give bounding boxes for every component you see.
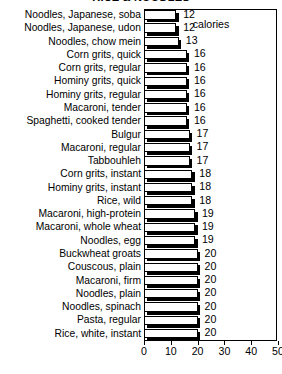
- bar-face: [144, 143, 190, 152]
- bar-row: Macaroni, whole wheat19: [0, 221, 282, 234]
- bar-face: [144, 130, 190, 139]
- bar: [144, 90, 187, 99]
- x-axis-tick-label: 10: [165, 345, 177, 357]
- bar-category-label: Macaroni, tender: [64, 102, 141, 115]
- bar: [144, 156, 190, 165]
- bar-row: Buckwheat groats20: [0, 248, 282, 261]
- bar-face: [144, 302, 198, 311]
- chart-title: RICE & NOODLES: [0, 0, 282, 3]
- bar-category-label: Hominy grits, instant: [48, 182, 141, 195]
- bar-face: [144, 276, 198, 285]
- bar-category-label: Noodles, Japanese, udon: [24, 22, 141, 35]
- bar-row: Hominy grits, regular16: [0, 89, 282, 102]
- bar-category-label: Rice, wild: [97, 195, 141, 208]
- bar-category-label: Noodles, spinach: [62, 301, 141, 314]
- bar-value-label: 20: [205, 248, 217, 261]
- bar: [144, 77, 187, 86]
- bar-value-label: 17: [197, 155, 209, 168]
- x-axis-tick-label: 0: [141, 345, 147, 357]
- bar-category-label: Corn grits, quick: [67, 49, 141, 62]
- bar-row: Tabbouhleh17: [0, 155, 282, 168]
- bar-face: [144, 170, 192, 179]
- bar-row: Bulgur17: [0, 129, 282, 142]
- bar-value-label: 20: [205, 314, 217, 327]
- bar-value-label: 16: [194, 75, 206, 88]
- bar-row: Corn grits, regular16: [0, 62, 282, 75]
- bar-face: [144, 249, 198, 258]
- bar-face: [144, 116, 187, 125]
- bar-value-label: 17: [197, 141, 209, 154]
- bar-category-label: Macaroni, regular: [61, 142, 141, 155]
- bar-value-label: 19: [202, 234, 214, 247]
- bar-value-label: 19: [202, 221, 214, 234]
- bar-category-label: Noodles, plain: [76, 288, 141, 301]
- bar-row: Macaroni, high-protein19: [0, 208, 282, 221]
- x-axis-tick-label: 40: [245, 345, 257, 357]
- bar-row: Noodles, plain20: [0, 288, 282, 301]
- bar-value-label: 18: [199, 168, 211, 181]
- bar-row: Noodles, egg19: [0, 235, 282, 248]
- bar: [144, 130, 190, 139]
- bar: [144, 209, 195, 218]
- bar-row: Hominy grits, instant18: [0, 182, 282, 195]
- bar-face: [144, 50, 187, 59]
- bar: [144, 249, 198, 258]
- bar: [144, 236, 195, 245]
- bar: [144, 23, 176, 32]
- bar-face: [144, 77, 187, 86]
- bar-category-label: Macaroni, whole wheat: [36, 221, 141, 234]
- bar: [144, 63, 187, 72]
- bar: [144, 316, 198, 325]
- bar-category-label: Bulgur: [111, 129, 141, 142]
- bar-face: [144, 63, 187, 72]
- bar-value-label: 20: [205, 261, 217, 274]
- bar-category-label: Hominy grits, regular: [46, 89, 141, 102]
- bar-category-label: Corn grits, regular: [59, 62, 141, 75]
- bar-face: [144, 223, 195, 232]
- bar: [144, 143, 190, 152]
- bar: [144, 116, 187, 125]
- bar: [144, 50, 187, 59]
- bar-category-label: Hominy grits, quick: [54, 75, 141, 88]
- bar-row: Corn grits, instant18: [0, 168, 282, 181]
- bar-value-label: 16: [194, 62, 206, 75]
- bar-face: [144, 209, 195, 218]
- bar: [144, 103, 187, 112]
- bar-value-label: 20: [205, 287, 217, 300]
- bar-value-label: 19: [202, 208, 214, 221]
- bar-value-label: 16: [194, 48, 206, 61]
- bar: [144, 263, 198, 272]
- bar-value-label: 20: [205, 274, 217, 287]
- bar-value-label: 16: [194, 88, 206, 101]
- bar-value-label: 16: [194, 102, 206, 115]
- bar-row: Macaroni, tender16: [0, 102, 282, 115]
- bar-row: Couscous, plain20: [0, 261, 282, 274]
- bar-face: [144, 23, 176, 32]
- bar-value-label: 18: [199, 195, 211, 208]
- bar-category-label: Buckwheat groats: [59, 248, 141, 261]
- x-axis: 01020304050: [0, 341, 282, 374]
- bar-category-label: Macaroni, firm: [76, 275, 141, 288]
- bar-value-label: 17: [197, 128, 209, 141]
- bar-category-label: Noodles, egg: [80, 235, 141, 248]
- bar: [144, 223, 195, 232]
- bar-value-label: 20: [205, 301, 217, 314]
- bar-row: Hominy grits, quick16: [0, 75, 282, 88]
- bar: [144, 10, 176, 19]
- bar-face: [144, 156, 190, 165]
- bar-row: Macaroni, firm20: [0, 275, 282, 288]
- bar-category-label: Rice, white, instant: [55, 328, 141, 341]
- bar: [144, 276, 198, 285]
- bar-value-label: 18: [199, 181, 211, 194]
- bar-face: [144, 37, 179, 46]
- bar-row: Pasta, regular20: [0, 314, 282, 327]
- bar-face: [144, 263, 198, 272]
- bar-face: [144, 10, 176, 19]
- bar-face: [144, 289, 198, 298]
- bar: [144, 196, 192, 205]
- bar: [144, 289, 198, 298]
- bar-category-label: Pasta, regular: [77, 314, 141, 327]
- bar-row: Noodles, spinach20: [0, 301, 282, 314]
- bar-category-label: Macaroni, high-protein: [39, 208, 141, 221]
- bar-category-label: Noodles, Japanese, soba: [25, 9, 141, 22]
